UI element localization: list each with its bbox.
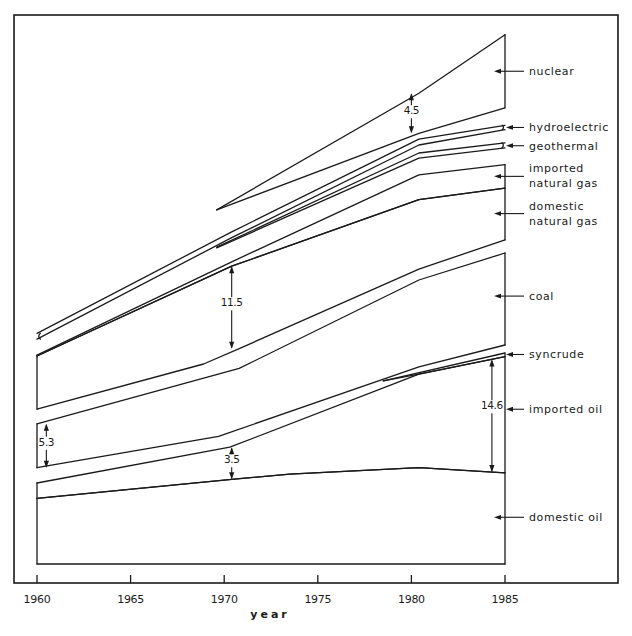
label-syncrude: syncrude (529, 348, 584, 361)
label-imported-oil: imported oil (529, 403, 603, 416)
label-pointer-head-nuclear (494, 69, 501, 74)
series-domestic-oil-upper-line (37, 468, 505, 499)
energy-chart: 196019651970197519801985 4.511.55.33.514… (0, 0, 632, 636)
series-syncrude-upper-line (383, 353, 505, 381)
x-tick-label-1960: 1960 (24, 593, 51, 606)
block-1960-cap-3 (39, 333, 41, 339)
label-coal: coal (529, 290, 554, 303)
x-tick-label-1980: 1980 (398, 593, 425, 606)
series-imported-natural-gas-upper-line (37, 165, 505, 356)
label-pointer-head-coal (494, 294, 501, 299)
annotation-arrowhead-down-4 (489, 465, 494, 472)
label-pointer-head-imported-natural-gas (494, 174, 501, 179)
label-pointer-head-imported-oil (506, 407, 513, 412)
x-tick-label-1970: 1970 (211, 593, 238, 606)
x-tick-label-1975: 1975 (304, 593, 331, 606)
label-pointer-head-syncrude (506, 352, 513, 357)
series-coal-upper-line (37, 253, 505, 424)
annotation-value-3: 3.5 (224, 453, 240, 465)
annotation-value-2: 5.3 (39, 436, 55, 448)
label-imported-natural-gas-line-0: imported (529, 162, 584, 175)
x-axis-label: year (250, 608, 289, 621)
x-tick-label-1965: 1965 (117, 593, 144, 606)
label-domestic-natural-gas-line-1: natural gas (529, 215, 598, 228)
series-domestic-natural-gas-upper-line (37, 188, 505, 356)
series-imported-oil-upper-line (37, 357, 505, 483)
annotation-arrowhead-down-3 (229, 472, 234, 479)
annotation-arrowhead-up-4 (489, 360, 494, 367)
series-imported-oil-lower-line (37, 468, 505, 499)
label-pointer-head-hydroelectric (506, 125, 513, 130)
series-geothermal-lower-line (217, 148, 505, 248)
block-1985-cap-3 (502, 143, 503, 148)
block-1985-cap-4 (502, 125, 503, 129)
annotation-arrowhead-down-0 (409, 126, 414, 133)
label-nuclear: nuclear (529, 65, 574, 78)
label-imported-natural-gas-line-1: natural gas (529, 177, 598, 190)
label-domestic-oil: domestic oil (529, 511, 603, 524)
annotation-value-1: 11.5 (221, 296, 243, 308)
series-geothermal-upper-line (217, 143, 505, 247)
label-pointer-head-domestic-natural-gas (494, 211, 501, 216)
label-hydroelectric: hydroelectric (529, 121, 609, 134)
annotation-value-0: 4.5 (404, 104, 420, 116)
series-coal-lower-line (37, 345, 505, 468)
label-pointer-head-geothermal (506, 143, 513, 148)
plot-frame (14, 15, 618, 583)
series-domestic-natural-gas-lower-line (37, 240, 505, 409)
label-geothermal: geothermal (529, 140, 598, 153)
series-hydroelectric-lower-line (37, 130, 505, 340)
x-tick-label-1985: 1985 (492, 593, 519, 606)
annotation-value-4: 14.6 (481, 399, 503, 411)
series-imported-natural-gas-lower-line (37, 188, 505, 356)
label-domestic-natural-gas-line-0: domestic (529, 200, 584, 213)
label-pointer-head-domestic-oil (494, 515, 501, 520)
series-nuclear-lower-line (217, 108, 505, 210)
annotation-arrowhead-down-1 (229, 342, 234, 349)
annotation-arrowhead-up-2 (44, 424, 49, 431)
